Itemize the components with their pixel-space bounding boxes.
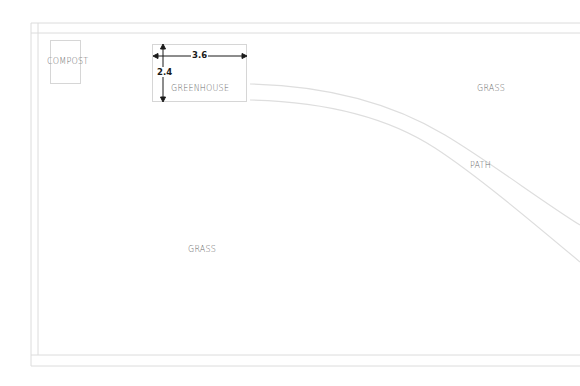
greenhouse-height-dimension: 2.4 xyxy=(156,67,173,77)
greenhouse-label: GREENHOUSE xyxy=(171,84,229,93)
grass-upper-label: GRASS xyxy=(477,84,505,93)
path-label: PATH xyxy=(470,161,491,170)
compost-label: COMPOST xyxy=(47,57,88,66)
greenhouse-width-dimension: 3.6 xyxy=(191,50,208,60)
path-edges xyxy=(250,84,580,262)
grass-lower-label: GRASS xyxy=(188,245,216,254)
